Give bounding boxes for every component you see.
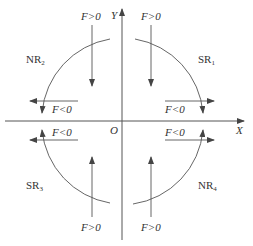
force-label-bottom-left: F>0 xyxy=(81,222,101,233)
force-label-top-right: F>0 xyxy=(141,11,161,22)
arc-nr2 xyxy=(42,39,110,113)
arc-nr4 xyxy=(133,130,203,204)
y-axis-label: Y xyxy=(111,10,117,21)
force-label-left-upper: F<0 xyxy=(52,104,72,115)
region-label-sr1: SR1 xyxy=(198,54,215,67)
force-label-right-upper: F<0 xyxy=(165,104,185,115)
region-label-nr2: NR2 xyxy=(26,54,45,67)
region-label-nr4: NR4 xyxy=(198,180,217,193)
region-label-sr3: SR3 xyxy=(26,180,43,193)
circular-interpolation-quadrant-diagram: Y X O NR2 SR1 SR3 NR4 F>0 F>0 F>0 F>0 F<… xyxy=(0,0,253,246)
x-axis-label: X xyxy=(236,125,243,136)
origin-label: O xyxy=(110,125,118,136)
force-label-left-lower: F<0 xyxy=(52,127,72,138)
arc-sr3 xyxy=(42,130,110,203)
diagram-graphics xyxy=(0,0,253,246)
arc-sr1 xyxy=(135,39,203,113)
force-label-top-left: F>0 xyxy=(81,11,101,22)
force-label-right-lower: F<0 xyxy=(165,127,185,138)
force-label-bottom-right: F>0 xyxy=(141,222,161,233)
